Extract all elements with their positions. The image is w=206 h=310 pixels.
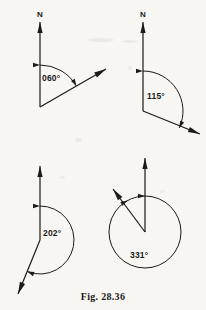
north-label: N: [37, 10, 43, 19]
diagram-bearing-060: 060°N: [33, 10, 106, 107]
north-arrowhead: [140, 22, 145, 33]
figure-page: 060°N115°N202°331° Fig. 28.36: [0, 0, 206, 310]
bearing-arrowhead: [188, 127, 200, 134]
diagram-bearing-202: 202°: [18, 166, 74, 294]
arc-end-arrowhead: [27, 272, 34, 277]
north-arrowhead: [142, 158, 147, 169]
bearings-figure: 060°N115°N202°331°: [0, 0, 206, 310]
bearing-arrowhead: [94, 69, 106, 77]
angle-label: 060°: [42, 73, 61, 83]
figure-caption: Fig. 28.36: [0, 291, 206, 302]
bearing-arrowhead: [113, 189, 122, 200]
arc-start-arrowhead: [33, 63, 40, 67]
north-arrowhead: [37, 166, 42, 177]
arc-start-arrowhead: [136, 69, 143, 73]
angle-label: 115°: [147, 91, 165, 101]
angle-label: 202°: [43, 228, 62, 238]
north-label: N: [140, 10, 146, 19]
diagram-bearing-115: 115°N: [136, 10, 200, 134]
angle-label: 331°: [130, 250, 149, 260]
arc-start-arrowhead: [138, 194, 145, 198]
angle-arc: [27, 206, 74, 274]
arc-start-arrowhead: [33, 204, 40, 208]
diagram-bearing-331: 331°: [109, 158, 181, 268]
north-arrowhead: [37, 22, 42, 33]
